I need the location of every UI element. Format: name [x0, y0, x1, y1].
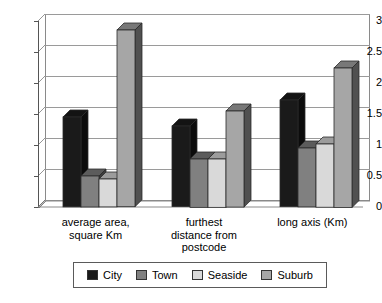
chart-container: 32.521.510.50 average area,square Kmfurt… — [0, 0, 382, 303]
category-label-2: furthestdistance frompostcode — [144, 216, 264, 254]
bar-suburb-group-2 — [226, 104, 251, 207]
category-label-line: square Km — [36, 229, 156, 242]
legend-label: Seaside — [208, 270, 248, 281]
category-label-line: long axis (Km) — [252, 216, 372, 229]
legend-label: Suburb — [277, 270, 312, 281]
category-label-line: postcode — [144, 241, 264, 254]
category-label-line: distance from — [144, 229, 264, 242]
legend-swatch-icon — [136, 270, 147, 280]
legend-item-suburb[interactable]: Suburb — [261, 270, 312, 281]
legend-swatch-icon — [261, 270, 272, 280]
chart-legend: CityTownSeasideSuburb — [73, 262, 327, 288]
legend-item-city[interactable]: City — [87, 270, 122, 281]
bar-suburb-group-1 — [117, 23, 142, 207]
plot-area: 32.521.510.50 — [0, 0, 382, 230]
bar-suburb-group-3 — [334, 61, 359, 208]
legend-label: City — [103, 270, 122, 281]
legend-item-seaside[interactable]: Seaside — [192, 270, 248, 281]
legend-item-town[interactable]: Town — [136, 270, 178, 281]
category-label-line: furthest — [144, 216, 264, 229]
legend-label: Town — [152, 270, 178, 281]
bars-layer — [0, 0, 382, 230]
category-label-1: average area,square Km — [36, 216, 156, 241]
category-label-3: long axis (Km) — [252, 216, 372, 229]
legend-swatch-icon — [87, 270, 98, 280]
legend-swatch-icon — [192, 270, 203, 280]
category-label-line: average area, — [36, 216, 156, 229]
